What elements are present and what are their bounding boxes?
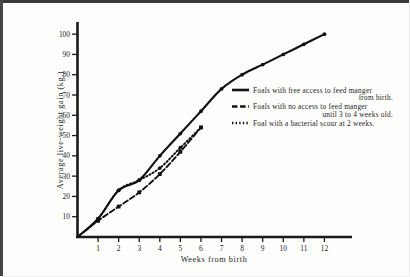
data-point bbox=[178, 146, 182, 150]
legend-label-line1: Foal with a bacterial scour at 2 weeks. bbox=[253, 119, 375, 128]
y-tick-label: 100 bbox=[59, 30, 70, 39]
chart-legend: Foals with free access to feed mangerfro… bbox=[232, 86, 393, 128]
x-tick-label: 12 bbox=[321, 244, 329, 253]
data-point bbox=[137, 190, 141, 194]
legend-entry-3: Foal with a bacterial scour at 2 weeks. bbox=[232, 119, 375, 128]
x-tick-label: 3 bbox=[137, 244, 141, 253]
figure-container: 102030405060708090100 123456789101112 We… bbox=[0, 0, 410, 277]
series-line-solid bbox=[78, 34, 325, 237]
x-tick-label: 11 bbox=[300, 244, 307, 253]
legend-label-line2: until 3 to 4 weeks old. bbox=[322, 110, 393, 119]
x-tick-label: 5 bbox=[179, 244, 183, 253]
line-chart: 102030405060708090100 123456789101112 We… bbox=[0, 0, 410, 277]
data-point bbox=[117, 205, 121, 209]
legend-label-line2: from birth. bbox=[359, 93, 393, 102]
data-point bbox=[240, 73, 244, 77]
x-tick-label: 2 bbox=[117, 244, 121, 253]
x-tick-label: 6 bbox=[199, 244, 203, 253]
y-tick-label: 90 bbox=[63, 50, 71, 59]
data-point bbox=[158, 166, 162, 170]
data-series-layer bbox=[78, 32, 327, 237]
series-line-dotted bbox=[78, 127, 201, 237]
data-point bbox=[158, 172, 162, 176]
y-tick-label: 10 bbox=[63, 212, 71, 221]
data-point bbox=[261, 63, 265, 67]
data-point bbox=[178, 132, 182, 136]
x-axis-tick-labels: 123456789101112 bbox=[96, 244, 328, 253]
x-tick-label: 8 bbox=[240, 244, 244, 253]
data-point bbox=[137, 178, 141, 182]
data-point bbox=[199, 109, 203, 113]
legend-entry-1: Foals with free access to feed mangerfro… bbox=[232, 86, 393, 103]
y-axis-title: Average live-weight gain (kg.) bbox=[56, 71, 65, 189]
series-1 bbox=[78, 32, 327, 237]
data-point bbox=[158, 154, 162, 158]
data-point bbox=[220, 87, 224, 91]
data-point bbox=[281, 53, 285, 57]
x-tick-label: 9 bbox=[261, 244, 265, 253]
legend-label-line1: Foals with free access to feed manger bbox=[253, 86, 372, 95]
legend-entry-2: Foals with no access to feed mangeruntil… bbox=[232, 102, 393, 119]
y-tick-label: 20 bbox=[63, 192, 71, 201]
x-axis-title: Weeks from birth bbox=[181, 255, 248, 264]
data-point bbox=[199, 126, 203, 130]
data-point bbox=[323, 32, 327, 36]
data-point bbox=[178, 150, 182, 154]
data-point bbox=[96, 217, 100, 221]
data-point bbox=[117, 188, 121, 192]
x-tick-label: 10 bbox=[280, 244, 288, 253]
x-tick-label: 7 bbox=[220, 244, 224, 253]
x-tick-label: 4 bbox=[158, 244, 162, 253]
series-3 bbox=[78, 126, 203, 237]
x-tick-label: 1 bbox=[96, 244, 100, 253]
data-point bbox=[302, 42, 306, 46]
